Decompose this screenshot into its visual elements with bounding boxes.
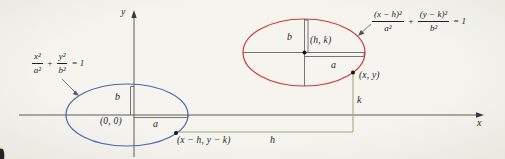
point-x-minus-h-y-minus-k-label: (x − h, y − k): [177, 136, 231, 146]
translated-semi-major-segment: [305, 53, 364, 57]
page-edge-mark: [0, 148, 4, 159]
point-x-y-label: (x, y): [359, 71, 380, 81]
standard-eq-numerator-1: x²: [32, 51, 43, 64]
offset-h-k-lines: [177, 74, 353, 132]
standard-eq-numerator-2: y²: [57, 51, 68, 64]
translated-eq-denominator-1: a²: [384, 22, 391, 33]
standard-b-label: b: [115, 92, 120, 102]
standard-equation-arrowhead-icon: [73, 91, 79, 96]
standard-equation-fraction-1: x² a²: [32, 51, 43, 75]
vertical-offset-k-label: k: [357, 95, 362, 105]
y-axis-arrowhead-icon: [131, 10, 136, 18]
translated-equation-fraction-2: (y − k)² b²: [418, 9, 449, 33]
center-h-k-label: (h, k): [310, 36, 331, 46]
translated-equation-fraction-1: (x − h)² a²: [372, 9, 404, 33]
standard-eq-rhs: = 1: [70, 59, 85, 68]
point-x-y-dot: [351, 71, 355, 75]
horizontal-offset-h-label: h: [270, 135, 275, 145]
translated-eq-numerator-1: (x − h)²: [372, 9, 404, 22]
x-axis-label: x: [477, 118, 482, 128]
translated-ellipse-equation: (x − h)² a² + (y − k)² b² = 1: [372, 9, 467, 33]
origin-label: (0, 0): [100, 117, 122, 127]
translated-a-label: a: [331, 60, 336, 70]
standard-a-label: a: [153, 119, 158, 129]
ellipse-translation-figure: y x (0, 0) b a (x − h, y − k) (h, k) b a…: [0, 0, 505, 159]
standard-eq-plus: +: [46, 59, 54, 68]
standard-semi-minor-segment: [131, 87, 135, 116]
translated-eq-rhs: = 1: [452, 17, 467, 26]
translated-semi-minor-segment: [305, 20, 308, 53]
standard-equation-arrow-line: [62, 79, 75, 92]
translated-b-label: b: [287, 32, 292, 42]
standard-ellipse-equation: x² a² + y² b² = 1: [32, 51, 85, 75]
center-h-k-dot: [303, 51, 307, 55]
standard-eq-denominator-2: b²: [59, 64, 66, 75]
translated-eq-numerator-2: (y − k)²: [418, 9, 449, 22]
translated-eq-denominator-2: b²: [430, 22, 437, 33]
standard-eq-denominator-1: a²: [34, 64, 41, 75]
y-axis-label: y: [121, 7, 126, 17]
standard-equation-fraction-2: y² b²: [57, 51, 68, 75]
translated-eq-plus: +: [407, 17, 415, 26]
